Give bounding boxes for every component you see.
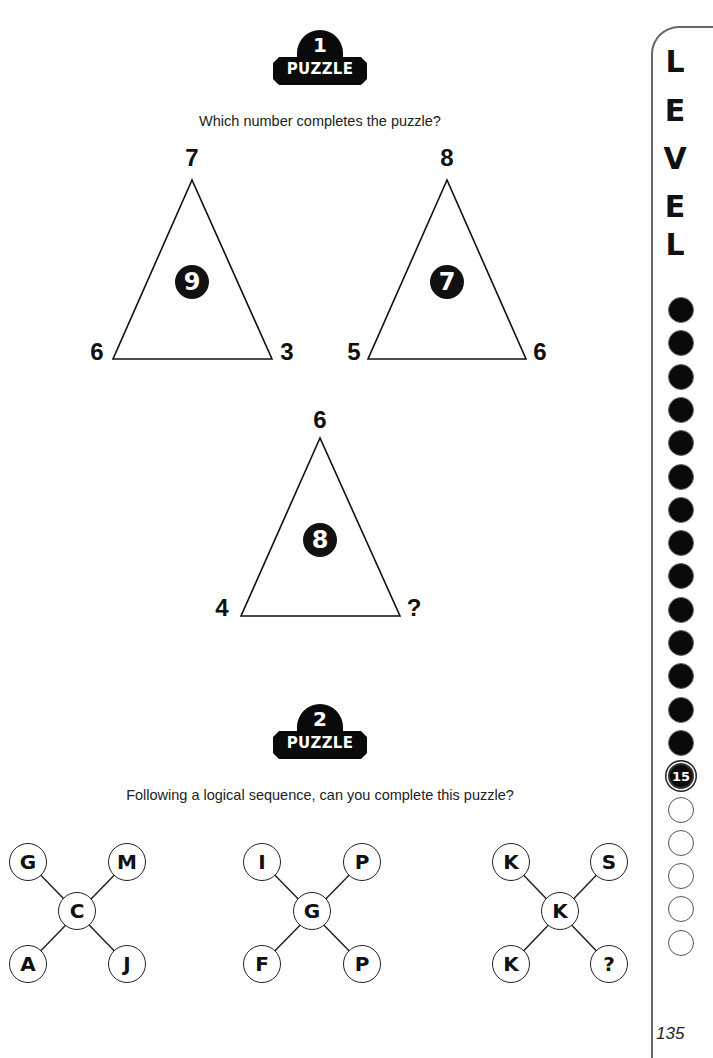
level-dot-filled xyxy=(668,730,694,756)
cross-3-bottom-right: ? xyxy=(590,945,628,983)
level-dot-empty xyxy=(668,896,694,922)
cross-3-center: K xyxy=(541,892,579,930)
level-dot-filled xyxy=(668,663,694,689)
level-dot-filled xyxy=(668,397,694,423)
level-dot-filled xyxy=(668,297,694,323)
cross-1-top-left: G xyxy=(9,843,47,881)
level-dot-current: 15 xyxy=(668,763,694,789)
cross-3-bottom-left: K xyxy=(492,945,530,983)
level-dot-empty xyxy=(668,797,694,823)
cross-2-top-right: P xyxy=(343,843,381,881)
level-dot-filled xyxy=(668,630,694,656)
level-letter: L xyxy=(660,227,690,262)
level-dot-empty xyxy=(668,830,694,856)
level-letter: V xyxy=(660,141,690,176)
cross-3-top-right: S xyxy=(590,843,628,881)
level-dot-filled xyxy=(668,530,694,556)
cross-2-top-left: I xyxy=(243,843,281,881)
cross-1-center: C xyxy=(58,892,96,930)
cross-1-top-right: M xyxy=(108,843,146,881)
cross-2-bottom-right: P xyxy=(343,945,381,983)
page-number: 135 xyxy=(656,1024,684,1044)
level-dot-filled xyxy=(668,697,694,723)
level-dot-empty xyxy=(668,930,694,956)
level-letter: E xyxy=(660,189,690,224)
level-dot-filled xyxy=(668,464,694,490)
level-dot-filled xyxy=(668,364,694,390)
level-dot-filled xyxy=(668,563,694,589)
cross-2-center: G xyxy=(293,892,331,930)
level-dot-filled xyxy=(668,430,694,456)
level-dot-filled xyxy=(668,597,694,623)
level-dot-filled xyxy=(668,497,694,523)
cross-1-bottom-left: A xyxy=(9,945,47,983)
cross-1-bottom-right: J xyxy=(108,945,146,983)
level-dot-filled xyxy=(668,330,694,356)
level-letter: E xyxy=(660,93,690,128)
cross-2-bottom-left: F xyxy=(243,945,281,983)
cross-3-top-left: K xyxy=(492,843,530,881)
level-dot-empty xyxy=(668,863,694,889)
cross-lines-diagram xyxy=(0,0,640,1045)
level-letter: L xyxy=(660,44,690,79)
